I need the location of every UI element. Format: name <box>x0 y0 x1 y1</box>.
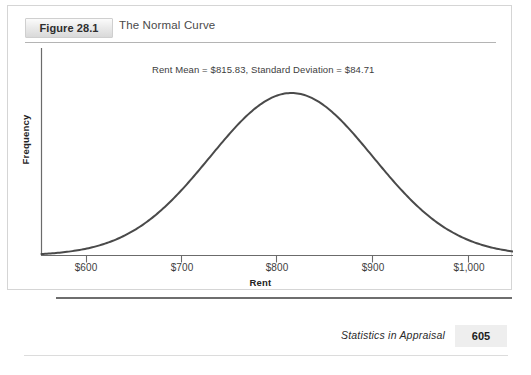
x-tick-label-700: $700 <box>152 262 212 273</box>
chart-plot-svg <box>8 6 513 291</box>
x-axis-label: Rent <box>8 277 513 288</box>
page-footer: Statistics in Appraisal 605 <box>0 325 531 349</box>
x-tick-label-1000: $1,000 <box>439 262 499 273</box>
normal-curve-chart: Frequency Rent Mean = $815.83, Standard … <box>8 6 513 291</box>
footer-top-divider <box>56 297 512 299</box>
footer-book-title: Statistics in Appraisal <box>341 329 445 341</box>
normal-distribution-curve <box>42 93 514 254</box>
figure-panel: Figure 28.1 The Normal Curve Frequency R… <box>7 5 512 290</box>
footer-bottom-divider <box>24 355 508 356</box>
page-number: 605 <box>455 325 507 347</box>
x-tick-label-600: $600 <box>56 262 116 273</box>
y-axis-label: Frequency <box>20 105 31 175</box>
x-tick-label-800: $800 <box>247 262 307 273</box>
x-tick-label-900: $900 <box>343 262 403 273</box>
chart-annotation-text: Rent Mean = $815.83, Standard Deviation … <box>152 64 374 75</box>
